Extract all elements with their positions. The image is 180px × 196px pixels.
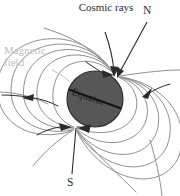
- magnetosphere-diagram: Cosmic rays N S Magnetic field Equator: [0, 0, 180, 196]
- label-north-pole: N: [143, 4, 151, 16]
- south-pointer: [72, 128, 76, 174]
- field-line-open-bottom-far-right: [150, 140, 162, 196]
- south-pointer-line: [72, 128, 76, 174]
- arrowhead-right: [142, 88, 152, 99]
- label-cosmic-rays: Cosmic rays: [78, 2, 134, 14]
- label-south-pole: S: [67, 176, 73, 188]
- field-line-open-bottom-right: [78, 132, 136, 192]
- arrowhead-south-left: [59, 123, 72, 131]
- field-line-open-bottom-left: [33, 130, 73, 166]
- north-pointer-line: [121, 22, 147, 70]
- label-magnetic-field: Magnetic field: [4, 44, 58, 69]
- field-line-open-top-right: [120, 70, 180, 76]
